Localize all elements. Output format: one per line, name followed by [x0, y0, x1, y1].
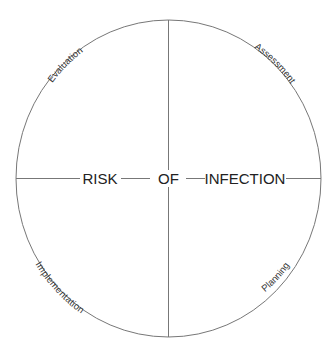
quadrant-label-implementation: Implementation [34, 259, 87, 315]
center-text-infection: INFECTION [205, 170, 286, 187]
quadrant-label-evaluation: Evaluation [45, 44, 84, 84]
center-text-of: OF [158, 170, 179, 187]
quadrant-label-assessment: Assessment [253, 40, 298, 85]
center-text-risk: RISK [82, 170, 117, 187]
quadrant-label-planning: Planning [259, 260, 291, 294]
risk-of-infection-cycle-diagram: RISK OF INFECTION Evaluation Assessment … [0, 0, 335, 359]
